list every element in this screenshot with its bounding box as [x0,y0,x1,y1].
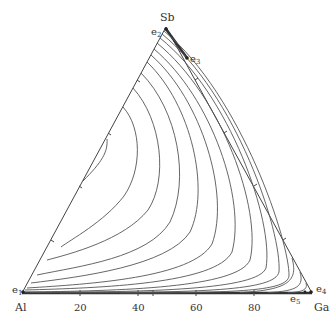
right-tick [224,131,227,133]
isotherm-5 [31,62,198,283]
left-axis-ticks [51,80,140,242]
triangle-frame [22,27,312,293]
isotherm-11 [120,31,289,293]
point-e5 [304,291,307,294]
right-axis-ticks [195,78,286,240]
isotherm-3 [47,88,160,260]
label-e4: e4 [316,283,327,296]
isotherm-1 [83,139,107,181]
tick-label-80: 80 [248,302,261,313]
right-tick [254,184,257,186]
tick-label-60: 60 [190,302,203,313]
right-tick [195,78,198,80]
isotherm-2 [61,107,137,247]
isotherm-10 [60,34,279,293]
isotherm-4 [37,73,180,275]
right-tick [283,238,286,240]
point-e4 [309,290,313,294]
eutectic-points [21,27,313,294]
label-e1: e1 [12,284,22,297]
edge-sb-ga [166,27,312,293]
isotherms [24,31,306,293]
ternary-diagram: Sb Al Ga 20 40 60 80 e1 e2 e3 e4 e5 [0,0,336,322]
point-e3 [185,56,189,60]
isotherm-6 [27,55,217,288]
isotherm-9 [30,38,267,293]
label-e5: e5 [290,293,300,306]
left-tick [137,80,140,82]
left-tick [51,240,54,242]
vertex-label-sb: Sb [160,11,175,24]
tick-label-40: 40 [132,302,145,313]
vertex-label-al: Al [14,301,27,314]
vertex-label-ga: Ga [314,301,330,314]
label-e2: e2 [151,26,161,39]
edge-al-sb [22,27,166,293]
tick-label-20: 20 [74,302,87,313]
isotherm-14 [288,283,306,293]
point-e2 [164,27,168,31]
